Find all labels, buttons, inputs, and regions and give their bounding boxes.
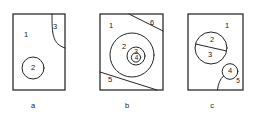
panel-a: 1 2 3 — [13, 14, 65, 90]
panel-b-label-5: 5 — [108, 75, 112, 84]
panel-c-label-3: 3 — [208, 50, 212, 59]
panel-c-frame — [188, 14, 243, 90]
panel-c-label-1: 1 — [225, 21, 229, 30]
panel-a-label-2: 2 — [31, 63, 35, 72]
panel-c-label-2: 2 — [210, 35, 214, 44]
panel-a-label-1: 1 — [24, 30, 28, 39]
panel-a-frame — [13, 14, 65, 90]
panel-a-label-3: 3 — [53, 22, 57, 31]
panel-b: 1 2 3 4 5 6 — [100, 14, 163, 90]
panel-c-label-5: 5 — [236, 77, 240, 84]
panel-c-label-4: 4 — [228, 66, 232, 75]
figure-root: 1 2 3 1 2 3 4 5 6 — [0, 0, 254, 128]
caption-a: a — [23, 101, 43, 110]
panel-b-label-6: 6 — [150, 18, 154, 27]
panel-b-label-4: 4 — [135, 54, 139, 61]
caption-b: b — [117, 101, 137, 110]
panel-b-label-1: 1 — [109, 21, 113, 30]
caption-c: c — [202, 101, 222, 110]
panel-c: 1 2 3 4 5 — [188, 14, 243, 90]
panel-b-label-2: 2 — [122, 42, 126, 51]
